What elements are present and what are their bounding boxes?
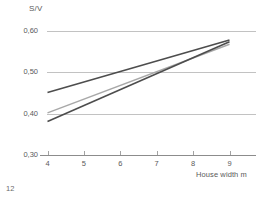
y-tick-label-0,50: 0,50 [16, 67, 38, 76]
x-axis-ticks [49, 151, 231, 155]
y-tick-label-0,30: 0,30 [16, 150, 38, 159]
x-axis-title: House width m [196, 170, 247, 179]
y-tick-label-0,60: 0,60 [16, 26, 38, 35]
series-line-3 [48, 42, 230, 122]
chart-figure: S/V 0,300,400,500,60 456789 House width … [0, 0, 272, 201]
x-tick-label-9: 9 [223, 159, 237, 168]
page-number: 12 [6, 184, 14, 193]
y-tick-label-0,40: 0,40 [16, 109, 38, 118]
x-tick-label-6: 6 [113, 159, 127, 168]
x-tick-label-8: 8 [186, 159, 200, 168]
x-tick-label-7: 7 [150, 159, 164, 168]
series-line-1 [48, 40, 230, 92]
x-tick-label-4: 4 [41, 159, 55, 168]
x-tick-label-5: 5 [77, 159, 91, 168]
series-lines [48, 40, 230, 121]
